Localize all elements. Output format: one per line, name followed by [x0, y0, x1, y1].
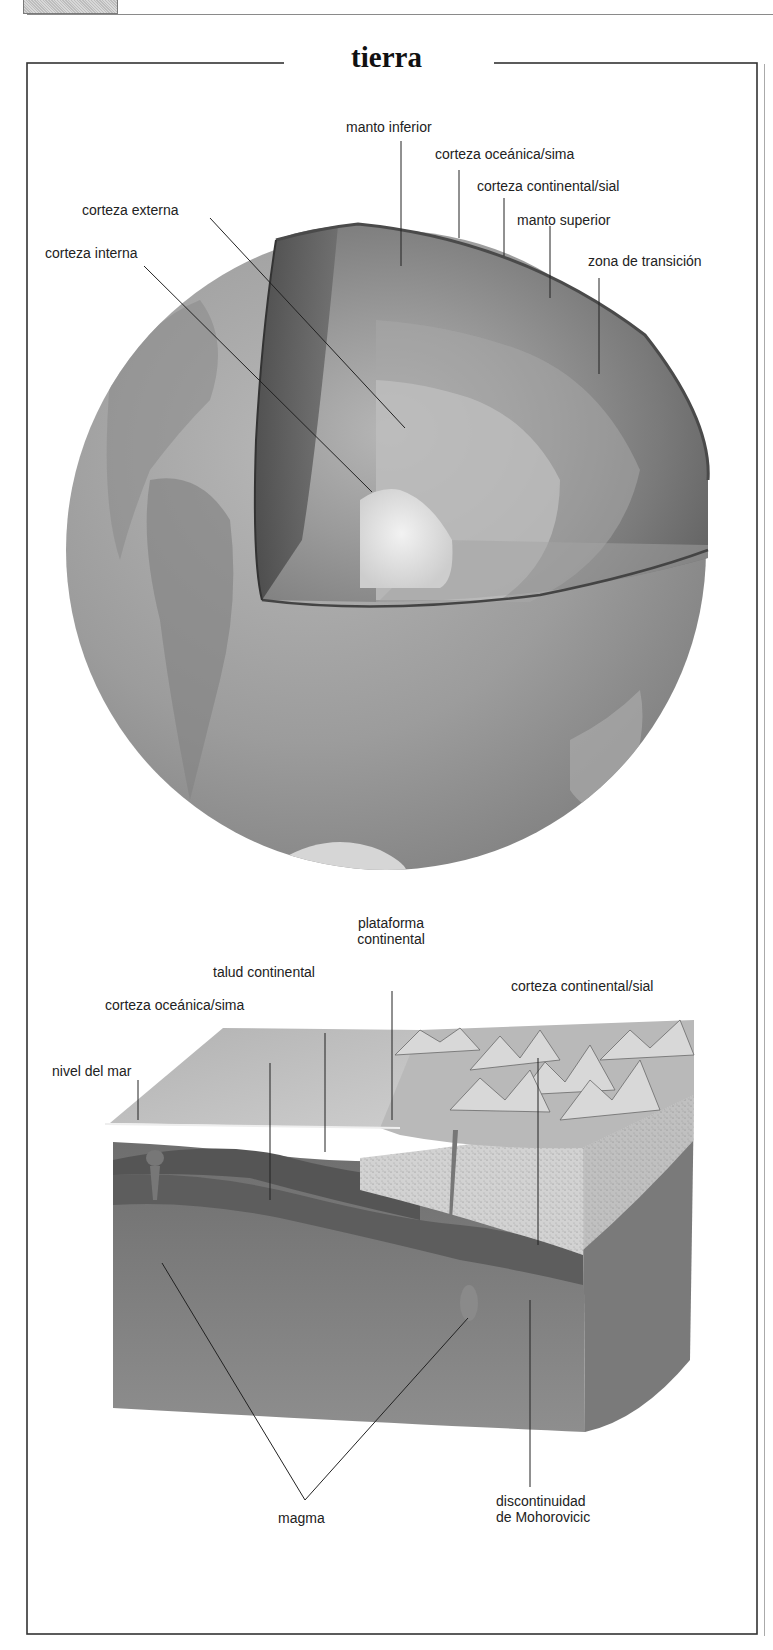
- globe-cutaway: [66, 224, 708, 881]
- label-manto-inferior: manto inferior: [346, 119, 432, 135]
- label-magma: magma: [278, 1510, 325, 1526]
- label-zona-de-transicion: zona de transición: [588, 253, 702, 269]
- label-plataforma-continental: plataforma continental: [349, 915, 433, 947]
- label-nivel-del-mar: nivel del mar: [52, 1063, 131, 1079]
- label-mohorovicic-line1: discontinuidad: [496, 1493, 590, 1509]
- label-mohorovicic-line2: de Mohorovicic: [496, 1509, 590, 1525]
- page-title: tierra: [0, 41, 773, 74]
- label-plataforma-line1: plataforma: [349, 915, 433, 931]
- label-corteza-externa: corteza externa: [82, 202, 179, 218]
- label-talud-continental: talud continental: [213, 964, 315, 980]
- label-corteza-continental-sial-block: corteza continental/sial: [511, 978, 653, 994]
- label-corteza-oceanica-sima: corteza oceánica/sima: [435, 146, 574, 162]
- label-discontinuidad-mohorovicic: discontinuidad de Mohorovicic: [496, 1493, 590, 1525]
- crust-block-diagram: [105, 1020, 694, 1432]
- page-title-text: tierra: [339, 41, 434, 74]
- label-corteza-oceanica-sima-block: corteza oceánica/sima: [105, 997, 244, 1013]
- label-plataforma-line2: continental: [349, 931, 433, 947]
- label-corteza-continental-sial: corteza continental/sial: [477, 178, 619, 194]
- label-manto-superior: manto superior: [517, 212, 610, 228]
- label-corteza-interna: corteza interna: [45, 245, 138, 261]
